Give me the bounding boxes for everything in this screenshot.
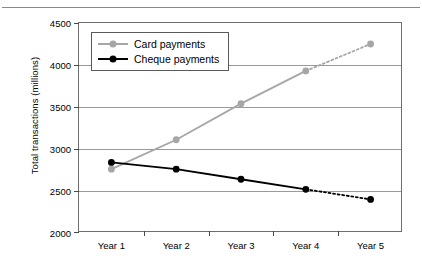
data-point-marker bbox=[302, 67, 309, 74]
data-point-marker bbox=[238, 100, 245, 107]
data-point-marker bbox=[302, 186, 309, 193]
y-axis-tick-label: 2500 bbox=[50, 186, 71, 197]
y-axis-tick-label: 3000 bbox=[50, 144, 71, 155]
series-line-solid bbox=[111, 162, 305, 189]
legend-label: Card payments bbox=[134, 38, 205, 50]
page-rule-divider bbox=[2, 7, 420, 8]
legend-marker-icon bbox=[98, 38, 128, 50]
series-line-forecast bbox=[306, 44, 371, 71]
data-point-marker bbox=[108, 159, 115, 166]
y-axis-title: Total transactions (millions) bbox=[29, 21, 40, 211]
plot-area: 200025003000350040004500 Year 1Year 2Yea… bbox=[78, 22, 402, 232]
data-point-marker bbox=[238, 176, 245, 183]
y-axis-tick-label: 2000 bbox=[50, 228, 71, 239]
legend-dot bbox=[110, 41, 117, 48]
data-point-marker bbox=[173, 136, 180, 143]
data-point-marker bbox=[108, 166, 115, 173]
x-axis-tick-label: Year 3 bbox=[227, 240, 254, 251]
chart-legend: Card paymentsCheque payments bbox=[91, 32, 229, 71]
y-axis-tick-label: 4500 bbox=[50, 18, 71, 29]
series-line-solid bbox=[111, 71, 305, 169]
x-axis-tick-label: Year 4 bbox=[292, 240, 319, 251]
x-axis-tick-label: Year 2 bbox=[163, 240, 190, 251]
data-point-marker bbox=[173, 166, 180, 173]
series-line-forecast bbox=[306, 189, 371, 199]
legend-marker-icon bbox=[98, 53, 128, 65]
legend-item: Card payments bbox=[98, 37, 219, 51]
y-axis-tick-label: 4000 bbox=[50, 60, 71, 71]
chart-figure: Total transactions (millions) 2000250030… bbox=[0, 0, 422, 269]
x-axis-tick-label: Year 5 bbox=[357, 240, 384, 251]
legend-dot bbox=[110, 56, 117, 63]
x-axis-tick-label: Year 1 bbox=[98, 240, 125, 251]
data-point-marker bbox=[367, 196, 374, 203]
data-point-marker bbox=[367, 41, 374, 48]
legend-item: Cheque payments bbox=[98, 52, 219, 66]
y-axis-tick-label: 3500 bbox=[50, 102, 71, 113]
legend-label: Cheque payments bbox=[134, 53, 219, 65]
